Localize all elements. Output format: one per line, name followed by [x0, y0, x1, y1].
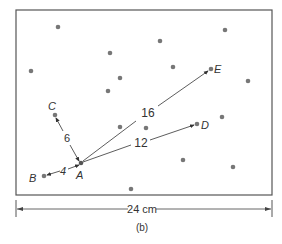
scatter-dot: [220, 115, 225, 120]
dimension-line: 24 cm: [16, 200, 272, 217]
vector-ac: [56, 118, 63, 131]
point-b: [42, 174, 47, 179]
figure-caption: (b): [136, 222, 148, 233]
scatter-dot: [118, 76, 123, 81]
label-d: D: [201, 119, 209, 131]
distance-ae: 16: [141, 106, 155, 120]
scatter-dot: [108, 51, 113, 56]
scatter-dot: [231, 165, 236, 170]
dimension-label: 24 cm: [127, 203, 157, 215]
scatter-dot: [158, 39, 163, 44]
point-a: [79, 161, 84, 166]
distance-ab: 4: [60, 165, 66, 177]
scatter-dot: [106, 89, 111, 94]
scatter-dot: [223, 28, 228, 33]
scatter-dot: [118, 125, 123, 130]
label-b: B: [29, 172, 36, 184]
point-c: [53, 113, 58, 118]
vector-ab: [47, 171, 60, 175]
label-c: C: [48, 100, 56, 112]
scatter-dot: [56, 25, 61, 30]
point-d: [195, 122, 200, 127]
label-a: A: [75, 169, 83, 181]
point-e: [209, 67, 214, 72]
scatter-dot: [181, 158, 186, 163]
scatter-dot: [171, 65, 176, 70]
distance-ac: 6: [64, 132, 70, 144]
scatter-dot: [144, 126, 149, 131]
label-e: E: [214, 63, 222, 75]
vector-ae: [83, 121, 136, 161]
vector-ad: [83, 145, 131, 162]
scatter-dot: [29, 69, 34, 74]
distance-ad: 12: [134, 136, 148, 150]
scatter-dot: [246, 79, 251, 84]
scatter-dot: [129, 187, 134, 192]
diagram-canvas: 24 cm 4 6 12 16 A B C D E (b): [0, 0, 282, 244]
